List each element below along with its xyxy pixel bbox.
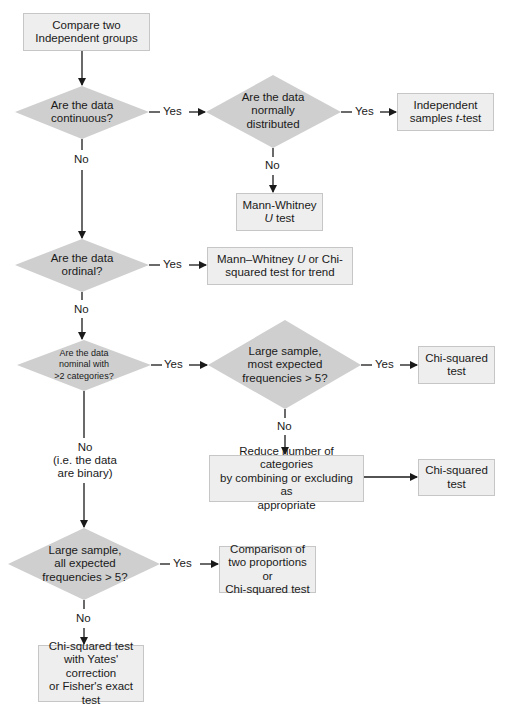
- decision-large-most: Large sample, most expected frequencies …: [230, 343, 340, 387]
- outcome-chi-squared-1-line-1: Chi-squared: [425, 352, 488, 366]
- edge-label-no-large-most: No: [277, 420, 292, 433]
- decision-ordinal: Are the data ordinal?: [35, 251, 129, 279]
- outcome-mann-whitney: Mann-Whitney U test: [236, 193, 323, 231]
- outcome-comparison: Comparison of two proportions or Chi-squ…: [219, 546, 316, 593]
- outcome-reduce-line-3: appropriate: [213, 499, 360, 513]
- outcome-t-test-line-2: samples t-test: [410, 112, 482, 126]
- outcome-yates-line-4: or Fisher's exact test: [42, 680, 140, 707]
- decision-ordinal-line-1: Are the data: [51, 252, 114, 266]
- decision-large-all-line-2: all expected: [42, 557, 127, 571]
- edge-label-yes-large-all: Yes: [173, 557, 192, 570]
- outcome-t-test-line-1: Independent: [410, 99, 482, 113]
- outcome-comparison-line-1: Comparison of: [223, 543, 312, 557]
- outcome-chi-squared-2-line-2: test: [425, 478, 488, 492]
- decision-continuous-line-2: continuous?: [51, 112, 114, 126]
- outcome-comparison-line-2: two proportions or: [223, 556, 312, 583]
- decision-large-most-line-2: most expected: [242, 358, 327, 372]
- decision-continuous-line-1: Are the data: [51, 99, 114, 113]
- decision-normal-line-3: distributed: [242, 118, 305, 132]
- decision-large-most-line-1: Large sample,: [242, 345, 327, 359]
- decision-large-all-line-1: Large sample,: [42, 544, 127, 558]
- decision-normal-line-1: Are the data: [242, 91, 305, 105]
- decision-nominal-line-3: >2 categories?: [54, 371, 113, 383]
- outcome-yates: Chi-squared test with Yates' correction …: [38, 645, 144, 702]
- outcome-reduce-line-1: Reduce number of categories: [213, 445, 360, 472]
- start-line-1: Compare two: [35, 19, 137, 33]
- outcome-chi-squared-1: Chi-squared test: [418, 346, 495, 384]
- outcome-chi-squared-1-line-2: test: [425, 365, 488, 379]
- outcome-yates-line-1: Chi-squared test: [42, 640, 140, 654]
- decision-normal-line-2: normally: [242, 104, 305, 118]
- flowchart-canvas: Compare two Independent groups Are the d…: [0, 0, 507, 716]
- edge-label-yes-ordinal: Yes: [163, 258, 182, 271]
- start-box: Compare two Independent groups: [23, 13, 150, 51]
- edge-label-no-normal: No: [265, 159, 280, 172]
- edge-label-no-large-all: No: [76, 612, 91, 625]
- decision-nominal-line-2: nominal with: [54, 359, 113, 371]
- outcome-t-test: Independent samples t-test: [397, 93, 494, 131]
- outcome-yates-line-2: with Yates': [42, 653, 140, 667]
- edge-label-yes-normal: Yes: [355, 105, 374, 118]
- outcome-chi-squared-2-line-1: Chi-squared: [425, 464, 488, 478]
- edge-label-no-continuous: No: [74, 153, 89, 166]
- decision-nominal-line-1: Are the data: [54, 348, 113, 360]
- outcome-mann-whitney-line-1: Mann-Whitney: [242, 199, 316, 213]
- outcome-mann-whitney-line-2: U test: [242, 212, 316, 226]
- edge-label-yes-large-most: Yes: [375, 358, 394, 371]
- binary-note-line-2: (i.e. the data: [50, 454, 120, 467]
- binary-note-line-3: are binary): [50, 467, 120, 480]
- decision-continuous: Are the data continuous?: [35, 98, 129, 126]
- edge-label-yes-nominal: Yes: [164, 358, 183, 371]
- outcome-reduce: Reduce number of categories by combining…: [209, 455, 364, 502]
- outcome-ordinal-result-line-1: Mann–Whitney U or Chi-: [217, 253, 343, 267]
- outcome-comparison-line-3: Chi-squared test: [223, 583, 312, 597]
- edge-label-binary-note: No (i.e. the data are binary): [50, 441, 120, 480]
- decision-normal: Are the data normally distributed: [226, 90, 320, 132]
- binary-note-line-1: No: [50, 441, 120, 454]
- outcome-chi-squared-2: Chi-squared test: [418, 459, 495, 496]
- decision-large-all-line-3: frequencies > 5?: [42, 571, 127, 585]
- decision-large-all: Large sample, all expected frequencies >…: [30, 542, 140, 586]
- decision-nominal: Are the data nominal with >2 categories?: [40, 347, 128, 383]
- outcome-ordinal-result: Mann–Whitney U or Chi- squared test for …: [207, 247, 353, 285]
- outcome-ordinal-result-line-2: squared test for trend: [217, 266, 343, 280]
- outcome-yates-line-3: correction: [42, 667, 140, 681]
- start-line-2: Independent groups: [35, 32, 137, 46]
- decision-large-most-line-3: frequencies > 5?: [242, 372, 327, 386]
- edge-label-yes-continuous: Yes: [163, 105, 182, 118]
- outcome-reduce-line-2: by combining or excluding as: [213, 472, 360, 499]
- decision-ordinal-line-2: ordinal?: [51, 265, 114, 279]
- edge-label-no-ordinal: No: [74, 303, 89, 316]
